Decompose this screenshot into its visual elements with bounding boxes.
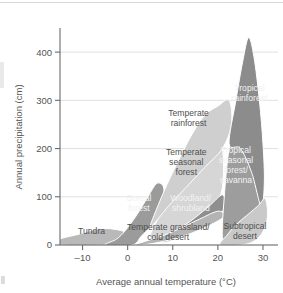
svg-text:cold desert: cold desert [147,232,190,242]
x-tick-label-10: 10 [167,252,178,263]
y-tick-label-0: 0 [47,239,52,250]
x-axis-title: Average annual temperature (°C) [96,276,236,287]
left-edge-cropped-mark [0,62,4,88]
svg-text:shrubland: shrubland [172,203,210,213]
svg-text:Temperate: Temperate [168,108,209,118]
svg-text:Tropical: Tropical [221,145,251,155]
y-tick-label-200: 200 [36,143,52,154]
x-tick-label-0: 0 [125,252,130,263]
top-divider-rule [0,2,283,3]
biome-label-woodland-shrubland: Woodland/shrubland [170,193,212,213]
svg-text:forest: forest [176,167,198,177]
svg-text:rainforest: rainforest [232,93,268,103]
biome-label-tropical-seasonal-forest-savanna: Tropicalseasonalforest/savanna [219,145,253,185]
x-tick-label-20: 20 [213,252,224,263]
svg-text:forest/: forest/ [224,165,248,175]
svg-text:forest: forest [128,203,150,213]
svg-text:savanna: savanna [220,175,253,185]
biome-label-temperate-rainforest: Temperaterainforest [168,108,209,128]
svg-text:Tundra: Tundra [78,226,105,236]
x-tick-label-30: 30 [258,252,269,263]
svg-text:Tropical: Tropical [234,83,264,93]
svg-text:Woodland/: Woodland/ [170,193,212,203]
x-tick-label--10: –10 [75,252,91,263]
svg-text:desert: desert [233,231,257,241]
biome-chart-svg: 0100200300400–100102030 Tropicalrainfore… [0,0,283,293]
y-tick-label-300: 300 [36,95,52,106]
svg-text:Temperate: Temperate [166,147,207,157]
y-tick-label-100: 100 [36,191,52,202]
svg-text:Temperate grassland/: Temperate grassland/ [127,222,210,232]
y-axis-title: Annual precipitation (cm) [13,84,24,189]
biome-label-tropical-rainforest: Tropicalrainforest [232,83,268,103]
whittaker-biome-diagram: 0100200300400–100102030 Tropicalrainfore… [0,0,283,293]
svg-text:seasonal: seasonal [219,155,253,165]
svg-text:rainforest: rainforest [171,118,207,128]
svg-text:Subtropical: Subtropical [223,221,266,231]
svg-text:Boreal: Boreal [127,193,152,203]
biome-regions-group [56,38,268,246]
y-tick-label-400: 400 [36,47,52,58]
bottom-left-cropped-mark [1,276,5,284]
biome-label-tundra: Tundra [78,226,105,236]
svg-text:seasonal: seasonal [169,157,203,167]
biome-label-boreal-forest: Borealforest [127,193,152,213]
